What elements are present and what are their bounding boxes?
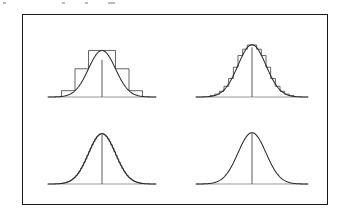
- caption-speck: [3, 2, 6, 4]
- chart-panel-bottom-right: [176, 111, 329, 206]
- chart-svg-bottom-right: [176, 111, 329, 206]
- chart-svg-bottom-left: [23, 111, 176, 206]
- caption-speck: [85, 2, 88, 4]
- chart-panel-bottom-left: [23, 111, 176, 206]
- chart-svg-top-right: [176, 15, 329, 111]
- chart-panel-top-left: [23, 15, 176, 111]
- caption-speck: [62, 2, 65, 4]
- figure-root: [0, 0, 348, 221]
- chart-svg-top-left: [23, 15, 176, 111]
- caption-speck: [108, 2, 115, 4]
- figure-frame: [22, 14, 328, 205]
- chart-panel-top-right: [176, 15, 329, 111]
